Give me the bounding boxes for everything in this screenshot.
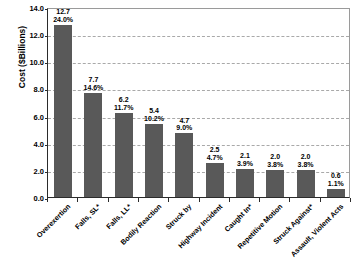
bar-value-label: 6.2 [104,96,144,104]
y-axis-tick-label: 14.0 [18,4,44,13]
y-axis-tick-label: 12.0 [18,31,44,40]
bar-percent-label: 14.6% [73,84,113,92]
bar-value-label: 2.0 [286,153,326,161]
bar [84,93,102,198]
plot-area: 12.724.0%7.714.6%6.211.7%5.410.2%4.79.0%… [47,8,350,198]
y-axis-tick-labels: 14.012.010.08.06.04.02.00.0 [18,8,44,198]
x-axis-label-overexertion: Overexertion [35,202,73,240]
bar-value-label: 7.7 [73,76,113,84]
bar [54,25,72,197]
bar-value-label: 5.4 [134,107,174,115]
x-axis-label-falls-ll: Falls, LL* [104,202,133,231]
y-axis-tick-label: 8.0 [18,85,44,94]
bar-value-label: 12.7 [43,8,83,16]
bar-label-group: 0.61.1% [316,172,356,188]
x-axis-label-falls-sl: Falls, SL* [74,202,103,231]
bar-label-group: 2.03.8% [286,153,326,169]
bar [145,124,163,197]
y-axis-tick-label: 4.0 [18,139,44,148]
bar-label-group: 7.714.6% [73,76,113,92]
y-axis-tick-label: 0.0 [18,194,44,203]
bar-value-label: 4.7 [164,117,204,125]
y-axis-tick-label: 2.0 [18,166,44,175]
y-axis-tick-label: 6.0 [18,112,44,121]
bar [266,170,284,197]
bar-slot: 2.54.7% [200,9,230,197]
bar-chart: Cost ($Billions) 14.012.010.08.06.04.02.… [0,0,357,277]
bar-slot: 6.211.7% [109,9,139,197]
x-axis-label-assault-violent-acts: Assault, Violent Acts [289,202,346,259]
bar-percent-label: 24.0% [43,16,83,24]
bar-percent-label: 1.1% [316,180,356,188]
bar [236,169,254,198]
bar-slot: 5.410.2% [139,9,169,197]
bar-percent-label: 3.8% [286,161,326,169]
bar-slot: 4.79.0% [169,9,199,197]
bar-slot: 0.61.1% [321,9,351,197]
bar-percent-label: 9.0% [164,124,204,132]
bar [206,163,224,197]
bar-label-group: 4.79.0% [164,117,204,133]
bar-series: 12.724.0%7.714.6%6.211.7%5.410.2%4.79.0%… [48,9,349,197]
y-axis-tick-label: 10.0 [18,58,44,67]
bar-slot: 2.03.8% [290,9,320,197]
bar [327,189,345,197]
bar-slot: 12.724.0% [48,9,78,197]
x-axis-label-struck-by: Struck by [164,202,194,232]
bar [115,113,133,197]
bar [297,170,315,197]
x-axis-category-labels: OverexertionFalls, SL*Falls, LL*Bodily R… [47,202,357,277]
bar [175,133,193,197]
bar-value-label: 0.6 [316,172,356,180]
bar-label-group: 12.724.0% [43,8,83,24]
